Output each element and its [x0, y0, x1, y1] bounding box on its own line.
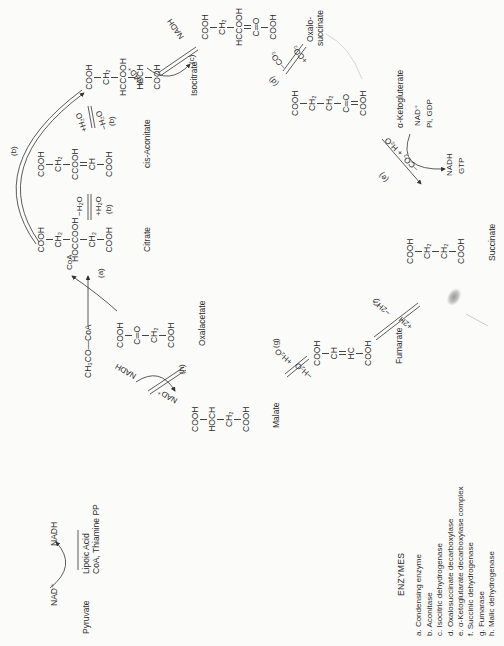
reaction-c-label: (c) — [188, 55, 196, 64]
enzyme-item: d. Oxalosuccinate decarboxylase — [446, 486, 456, 636]
reaction-a-label: (a) — [97, 268, 105, 278]
reaction-b1-top: −H₂O — [76, 196, 84, 216]
alpha-ketoglutarate-name: α-Ketogluterate — [396, 70, 405, 128]
citric-acid-cycle-diagram: Pyruvate NAD⁺ NADH Lipoic Acid CoA, Thia… — [0, 0, 504, 646]
fumarate-structure: COOH CH HC COOH — [312, 341, 373, 367]
reaction-b2-label: (b) — [108, 116, 116, 126]
cis-aconitate-name: cis-Aconitate — [143, 119, 152, 168]
pyruvate-label: Pyruvate — [82, 600, 91, 634]
nad-plus-label: NAD⁺ — [50, 583, 59, 606]
succinate-name: Succinate — [488, 224, 497, 261]
enzyme-legend: ENZYMES a. Condensing enzyme b. Aconitas… — [396, 486, 498, 636]
citrate-structure: COOH CH₂ HOCCOOH CH₂ COOH — [36, 218, 114, 262]
pyruvate-cofactor-arrow — [50, 542, 66, 588]
enzyme-item: c. Isocitric dehydrogenase — [435, 486, 445, 636]
nadh-label: NADH — [50, 522, 59, 546]
reaction-b1-label: (b) — [105, 204, 113, 214]
reaction-e-out-2: GTP — [458, 158, 466, 174]
lipoic-acid-label: Lipoic Acid — [82, 533, 91, 574]
acetyl-coa-label: CH₃CO—CoA — [84, 324, 93, 378]
reaction-e-in-1: NAD⁺ — [414, 105, 422, 126]
enzyme-item: f. Succinic dehydrogenase — [466, 486, 476, 636]
oxalacetate-name: Oxalacetate — [198, 301, 207, 346]
isocitrate-structure: COOH CH₂ HCCOOH HOCH COOH — [84, 58, 162, 96]
reaction-e-out-1: NADH — [446, 153, 454, 176]
citrate-name: Citrate — [143, 227, 152, 252]
alpha-ketoglutarate-structure: COOH CH₂ CH₂ C═O COOH — [290, 91, 368, 117]
condensing-arrow — [72, 276, 117, 311]
malate-structure: COOH HOCH CH₂ COOH — [190, 407, 251, 433]
malic-cofactor-arrow — [136, 376, 175, 391]
oxalacetate-structure: COOH C═O CH₂ COOH — [115, 323, 176, 349]
succinate-structure: COOH CH₂ CH₂ COOH — [405, 239, 466, 265]
reaction-b1-bottom: +H₂O — [95, 196, 103, 216]
enzyme-item: b. Aconitase — [425, 486, 435, 636]
enzyme-legend-heading: ENZYMES — [396, 486, 406, 596]
oxalosuccinate-name-2: succinate — [316, 10, 325, 46]
enzyme-item: h. Malic dehydrogenase — [487, 486, 497, 636]
oxalosuccinate-name-1: Oxalo- — [306, 17, 315, 42]
coa-released-label: CoA — [66, 254, 74, 270]
malate-name: Malate — [272, 402, 281, 428]
isocitrate-name: Isocitrate — [190, 62, 199, 97]
enzyme-item: a. Condensing enzyme — [414, 486, 424, 636]
enzyme-item: g. Fumarase — [477, 486, 487, 636]
coenzymes-label: CoA, Thiamine PP — [92, 504, 101, 574]
fumarate-name: Fumarate — [395, 328, 404, 364]
reaction-e-in-2: Pi, GDP — [426, 99, 434, 128]
figure-frame: Pyruvate NAD⁺ NADH Lipoic Acid CoA, Thia… — [0, 0, 504, 646]
oxalosuccinate-structure: COOH CH₂ HCCOOH C═O COOH — [200, 8, 278, 46]
reaction-h-label: (h) — [178, 364, 186, 374]
enzyme-item: e. α-Ketoglutarate decarboxylase complex — [456, 486, 466, 636]
cis-aconitate-structure: COOH CH₂ CCOOH CH COOH — [36, 148, 114, 180]
reaction-b-bypass-label: (b) — [10, 146, 18, 156]
